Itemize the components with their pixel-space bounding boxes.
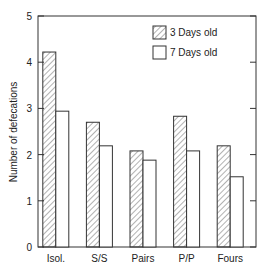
x-category-label: Isol.: [47, 253, 65, 264]
bar-7-days: [99, 146, 112, 247]
bar-3-days: [130, 151, 143, 247]
x-category-label: S/S: [91, 253, 107, 264]
legend-swatch: [153, 46, 166, 59]
legend-swatch: [153, 26, 166, 39]
bars-group: [43, 52, 243, 247]
bar-3-days: [86, 122, 99, 247]
bar-7-days: [56, 111, 69, 247]
bar-7-days: [230, 177, 243, 247]
legend-label: 3 Days old: [170, 27, 217, 38]
bar-7-days: [187, 151, 200, 247]
bar-3-days: [217, 146, 230, 247]
y-axis-title: Number of defecations: [8, 82, 19, 183]
y-tick-label: 3: [26, 103, 32, 114]
bar-chart: 012345 Isol.S/SPairsP/PFours Number of d…: [0, 0, 266, 271]
x-category-label: Fours: [217, 253, 243, 264]
bar-3-days: [43, 52, 56, 247]
bar-3-days: [174, 116, 187, 247]
x-category-label: P/P: [179, 253, 195, 264]
legend: 3 Days old7 Days old: [153, 26, 217, 59]
y-tick-label: 5: [26, 11, 32, 22]
bar-7-days: [143, 160, 156, 247]
y-tick-label: 1: [26, 196, 32, 207]
y-tick-label: 0: [26, 242, 32, 253]
legend-label: 7 Days old: [170, 47, 217, 58]
x-category-label: Pairs: [132, 253, 155, 264]
y-tick-label: 4: [26, 57, 32, 68]
y-tick-label: 2: [26, 150, 32, 161]
x-categories-group: Isol.S/SPairsP/PFours: [47, 253, 243, 264]
